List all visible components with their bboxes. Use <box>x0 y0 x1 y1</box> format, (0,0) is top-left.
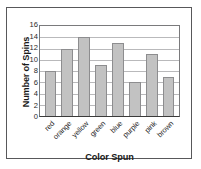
x-tick-slot: green <box>92 118 109 152</box>
y-axis-tick-label: 0 <box>34 112 38 122</box>
bar-green <box>95 65 107 116</box>
y-axis-tick-labels: 1614121086420 <box>23 20 38 117</box>
bar-slot <box>76 26 93 116</box>
y-axis-tick-label: 10 <box>30 55 38 65</box>
y-axis-tick-label: 6 <box>34 78 38 88</box>
bar-slot <box>126 26 143 116</box>
y-axis-tick-label: 4 <box>34 89 38 99</box>
bar-series <box>40 26 179 116</box>
bar-chart-figure: Number of Spins 1614121086420 redorangey… <box>0 0 201 169</box>
x-axis-title: Color Spun <box>39 151 180 164</box>
bar-orange <box>61 49 73 117</box>
bar-red <box>45 71 57 116</box>
bar-blue <box>112 43 124 116</box>
y-axis-tick-label: 16 <box>30 20 38 30</box>
x-tick-slot: yellow <box>75 118 92 152</box>
y-axis-tick-label: 14 <box>30 32 38 42</box>
x-tick-slot: brown <box>161 118 178 152</box>
bar-purple <box>129 82 141 116</box>
bar-pink <box>146 54 158 116</box>
bar-slot <box>42 26 59 116</box>
bar-yellow <box>78 37 90 116</box>
bar-brown <box>163 77 175 116</box>
y-axis-tick-label: 2 <box>34 101 38 111</box>
y-axis-tick-label: 8 <box>34 66 38 76</box>
bar-slot <box>143 26 160 116</box>
chart-frame-border: Number of Spins 1614121086420 redorangey… <box>6 7 192 159</box>
bar-slot <box>93 26 110 116</box>
bar-slot <box>110 26 127 116</box>
bar-slot <box>59 26 76 116</box>
x-tick-slot: purple <box>127 118 144 152</box>
y-axis-tick-label: 12 <box>30 43 38 53</box>
x-axis-tick-labels: redorangeyellowgreenbluepurplepinkbrown <box>39 118 180 152</box>
bar-slot <box>160 26 177 116</box>
plot-area <box>39 25 180 117</box>
